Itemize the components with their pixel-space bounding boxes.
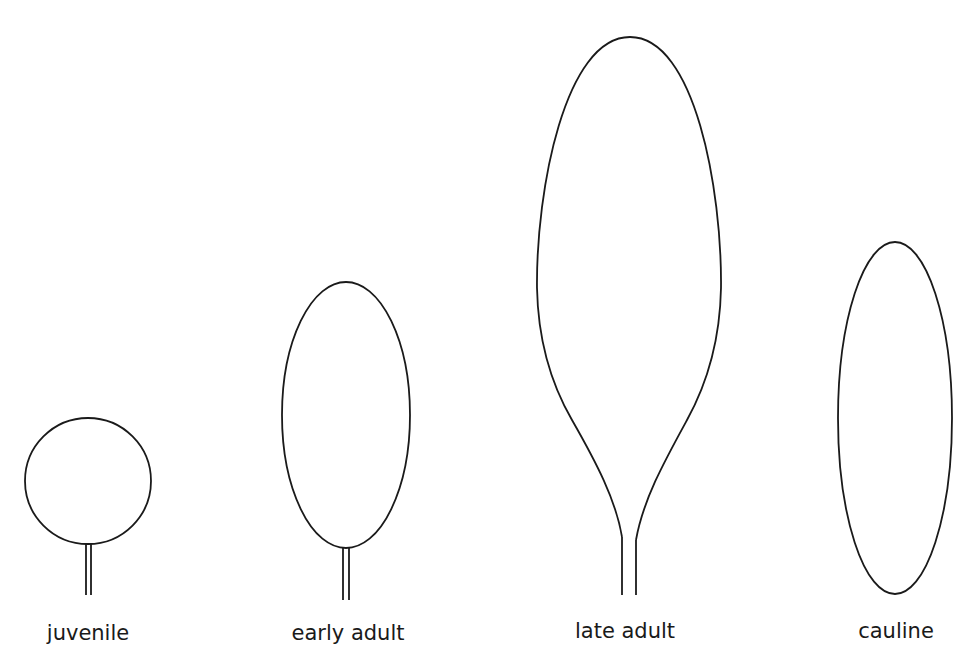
label-cauline: cauline <box>858 619 934 643</box>
label-early-adult: early adult <box>292 621 405 645</box>
late-adult-petiole <box>622 537 636 595</box>
early-adult-petiole <box>343 548 349 600</box>
juvenile-blade <box>25 418 151 544</box>
early-adult-leaf <box>282 282 410 600</box>
label-late-adult: late adult <box>575 619 675 643</box>
cauline-blade <box>838 242 952 594</box>
cauline-leaf <box>838 242 952 594</box>
label-juvenile: juvenile <box>47 621 129 645</box>
juvenile-leaf <box>25 418 151 595</box>
juvenile-petiole <box>86 544 91 595</box>
late-adult-leaf <box>537 37 721 595</box>
late-adult-blade <box>537 37 721 540</box>
leaf-diagram <box>0 0 963 670</box>
early-adult-blade <box>282 282 410 548</box>
